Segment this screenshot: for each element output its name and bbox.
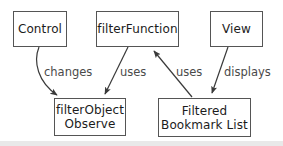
node-filtered-bookmark-list[interactable]: Filtered Bookmark List: [158, 98, 251, 137]
node-filtered-bookmark-list-label-line1: Filtered: [182, 104, 227, 118]
node-filter-object-label-line1: filterObject: [56, 103, 124, 117]
edge-label-displays: displays: [224, 66, 271, 79]
node-filter-function-label: filterFunction: [97, 22, 177, 36]
node-view[interactable]: View: [210, 11, 263, 47]
edge-label-uses-filterfunction: uses: [176, 66, 202, 79]
node-filter-object-label-line2: Observe: [65, 117, 116, 131]
node-filtered-bookmark-list-label-line2: Bookmark List: [161, 118, 248, 132]
node-filter-object-observe[interactable]: filterObject Observe: [54, 98, 126, 136]
bottom-band: [0, 141, 283, 146]
edge-label-uses-filterobject: uses: [120, 66, 146, 79]
node-control[interactable]: Control: [13, 11, 67, 47]
node-filter-function[interactable]: filterFunction: [96, 11, 179, 47]
diagram-canvas: Control filterFunction View filterObject…: [0, 0, 283, 146]
edge-label-changes: changes: [44, 66, 92, 79]
node-control-label: Control: [18, 22, 62, 36]
node-view-label: View: [222, 22, 251, 36]
